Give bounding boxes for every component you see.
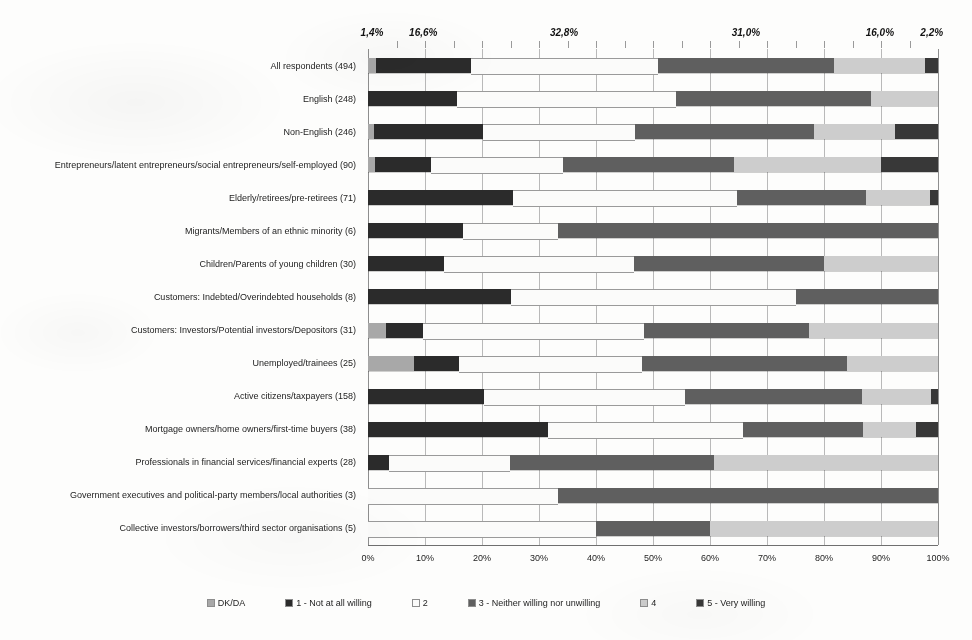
bar-row (368, 247, 938, 280)
bar-segment[interactable] (558, 223, 938, 238)
top-tick-mark (824, 41, 825, 48)
bar-segment[interactable] (459, 356, 641, 373)
bar-rows (368, 49, 938, 545)
bar-segment[interactable] (368, 289, 511, 304)
bar-segment[interactable] (558, 488, 938, 503)
bar-segment[interactable] (368, 190, 513, 205)
bar-segment[interactable] (834, 58, 925, 73)
bar-segment[interactable] (368, 91, 457, 106)
bar-segment[interactable] (457, 91, 675, 108)
stacked-bar[interactable] (368, 488, 938, 503)
bar-segment[interactable] (463, 223, 558, 240)
bar-segment[interactable] (596, 521, 710, 536)
bar-segment[interactable] (931, 389, 938, 404)
bar-segment[interactable] (444, 256, 634, 273)
bar-segment[interactable] (375, 157, 431, 172)
bar-segment[interactable] (895, 124, 938, 139)
legend-item[interactable]: 4 (640, 598, 656, 608)
bar-segment[interactable] (510, 455, 713, 470)
bar-segment[interactable] (710, 521, 938, 536)
bar-segment[interactable] (676, 91, 872, 106)
stacked-bar[interactable] (368, 256, 938, 271)
bar-segment[interactable] (871, 91, 938, 106)
stacked-bar[interactable] (368, 58, 938, 73)
legend-item[interactable]: 3 - Neither willing nor unwilling (468, 598, 601, 608)
bar-segment[interactable] (925, 58, 938, 73)
bar-segment[interactable] (368, 521, 596, 538)
bar-segment[interactable] (563, 157, 734, 172)
bar-segment[interactable] (714, 455, 938, 470)
bar-segment[interactable] (916, 422, 938, 437)
bar-segment[interactable] (368, 157, 375, 172)
top-tick-mark (511, 41, 512, 48)
stacked-bar[interactable] (368, 356, 938, 371)
legend-label: 3 - Neither willing nor unwilling (479, 598, 601, 608)
x-tick-label: 60% (701, 553, 719, 563)
bar-segment[interactable] (809, 323, 938, 338)
x-axis-tick-labels: 0%10%20%30%40%50%60%70%80%90%100% (368, 553, 938, 569)
bar-segment[interactable] (862, 389, 930, 404)
bar-segment[interactable] (644, 323, 809, 338)
bar-segment[interactable] (634, 256, 824, 271)
bar-segment[interactable] (376, 58, 471, 73)
bar-segment[interactable] (737, 190, 865, 205)
bar-segment[interactable] (368, 422, 548, 437)
bar-segment[interactable] (548, 422, 743, 439)
stacked-bar[interactable] (368, 223, 938, 238)
legend-item[interactable]: 2 (412, 598, 428, 608)
bar-segment[interactable] (511, 289, 796, 306)
bar-segment[interactable] (484, 389, 686, 406)
stacked-bar[interactable] (368, 157, 938, 172)
bar-segment[interactable] (734, 157, 880, 172)
bar-segment[interactable] (796, 289, 939, 304)
legend-item[interactable]: 1 - Not at all willing (285, 598, 372, 608)
bar-segment[interactable] (389, 455, 511, 472)
bar-segment[interactable] (658, 58, 835, 73)
bar-segment[interactable] (642, 356, 847, 371)
stacked-bar[interactable] (368, 455, 938, 470)
bar-segment[interactable] (685, 389, 862, 404)
bar-segment[interactable] (513, 190, 738, 207)
bar-segment[interactable] (368, 356, 414, 371)
bar-segment[interactable] (368, 223, 463, 238)
top-data-label: 31,0% (732, 27, 760, 38)
bar-segment[interactable] (368, 488, 558, 505)
bar-segment[interactable] (483, 124, 636, 141)
stacked-bar[interactable] (368, 91, 938, 106)
bar-segment[interactable] (471, 58, 658, 75)
bar-segment[interactable] (881, 157, 938, 172)
legend-swatch-icon (412, 599, 420, 607)
bar-segment[interactable] (368, 455, 389, 470)
bar-segment[interactable] (368, 256, 444, 271)
bar-segment[interactable] (743, 422, 863, 437)
bar-segment[interactable] (431, 157, 564, 174)
bar-segment[interactable] (386, 323, 423, 338)
bar-segment[interactable] (414, 356, 460, 371)
bar-segment[interactable] (374, 124, 483, 139)
stacked-bar[interactable] (368, 521, 938, 536)
stacked-bar[interactable] (368, 190, 938, 205)
stacked-bar[interactable] (368, 422, 938, 437)
stacked-bar[interactable] (368, 323, 938, 338)
bar-segment[interactable] (866, 190, 930, 205)
bar-segment[interactable] (814, 124, 895, 139)
top-data-labels: 1,4%16,6%32,8%31,0%16,0%2,2% (368, 27, 938, 45)
stacked-bar[interactable] (368, 389, 938, 404)
top-tick-mark (710, 41, 711, 48)
stacked-bar[interactable] (368, 289, 938, 304)
stacked-bar[interactable] (368, 124, 938, 139)
bar-segment[interactable] (930, 190, 938, 205)
bar-segment[interactable] (824, 256, 938, 271)
bar-segment[interactable] (368, 58, 376, 73)
legend-item[interactable]: DK/DA (207, 598, 246, 608)
bar-segment[interactable] (423, 323, 644, 340)
x-tick-label: 10% (416, 553, 434, 563)
bar-segment[interactable] (368, 389, 484, 404)
bar-segment[interactable] (863, 422, 915, 437)
bar-segment[interactable] (847, 356, 938, 371)
top-tick-mark (625, 41, 626, 48)
legend-item[interactable]: 5 - Very willing (696, 598, 765, 608)
plot-area (368, 49, 938, 545)
bar-segment[interactable] (635, 124, 813, 139)
bar-segment[interactable] (368, 323, 386, 338)
